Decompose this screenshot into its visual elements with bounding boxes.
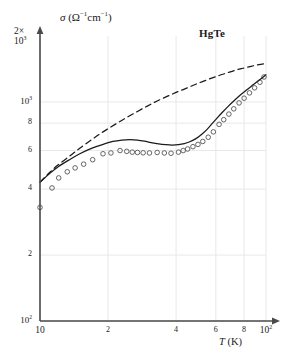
data-point [231,107,236,112]
conductivity-log-log-plot: σ (Ω−1cm−1) 2× 103 HgTe 1038642102 10246… [0,0,284,359]
data-point [65,169,70,174]
data-point [124,149,129,154]
data-point [237,101,242,106]
data-point [221,117,226,122]
data-point [247,91,252,96]
data-point [56,176,61,181]
data-point [206,135,211,140]
data-point [101,151,106,156]
data-point [147,151,152,156]
data-point [252,86,257,91]
data-point [162,151,167,156]
data-point [211,130,216,135]
data-point [141,150,146,155]
data-point [191,144,196,149]
data-point [196,142,201,147]
data-point [90,157,95,162]
data-point [73,166,78,171]
data-point [227,112,232,117]
data-point [109,151,114,156]
data-point [169,151,174,156]
data-point [81,162,86,167]
plot-canvas [0,0,284,359]
data-point [200,139,205,144]
